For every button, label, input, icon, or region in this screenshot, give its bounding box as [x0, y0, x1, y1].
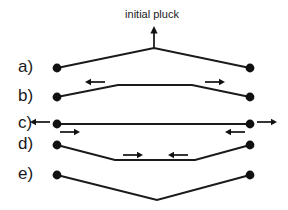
right-endpoint-dot — [246, 141, 255, 150]
motion-arrow-head-right — [219, 79, 225, 85]
motion-arrow-head-right — [271, 119, 277, 125]
motion-arrow-head-left — [168, 152, 174, 158]
string-rows-layer: a)b)c)d)e) — [18, 48, 277, 200]
string-row-d: d) — [18, 134, 254, 160]
row-label-b: b) — [18, 86, 33, 105]
initial-pluck-arrow — [150, 26, 157, 48]
right-endpoint-dot — [246, 64, 255, 73]
motion-arrow-head-right — [137, 152, 143, 158]
left-endpoint-dot — [53, 171, 62, 180]
pluck-diagram-figure: initial pluck a)b)c)d)e) — [0, 0, 288, 210]
string-row-a: a) — [18, 48, 254, 76]
left-endpoint-dot — [53, 64, 62, 73]
row-label-c: c) — [18, 113, 32, 132]
right-endpoint-dot — [246, 93, 255, 102]
string-row-b: b) — [18, 79, 254, 106]
string-curve — [57, 48, 250, 68]
string-curve — [57, 85, 250, 97]
motion-arrow-head-right — [74, 129, 80, 135]
right-endpoint-dot — [246, 120, 255, 129]
left-endpoint-dot — [53, 93, 62, 102]
left-endpoint-dot — [53, 120, 62, 129]
row-label-d: d) — [18, 134, 33, 153]
motion-arrow-head-left — [85, 79, 91, 85]
wave-propagation-diagram: initial pluck a)b)c)d)e) — [0, 0, 288, 210]
string-row-e: e) — [18, 164, 254, 200]
left-endpoint-dot — [53, 141, 62, 150]
motion-arrow-head-left — [225, 129, 231, 135]
string-curve — [57, 145, 250, 160]
right-endpoint-dot — [246, 171, 255, 180]
pluck-arrow-head — [150, 26, 157, 34]
row-label-e: e) — [18, 164, 33, 183]
string-curve — [57, 175, 250, 200]
row-label-a: a) — [18, 57, 33, 76]
string-row-c: c) — [18, 113, 277, 135]
initial-pluck-label: initial pluck — [125, 8, 179, 20]
